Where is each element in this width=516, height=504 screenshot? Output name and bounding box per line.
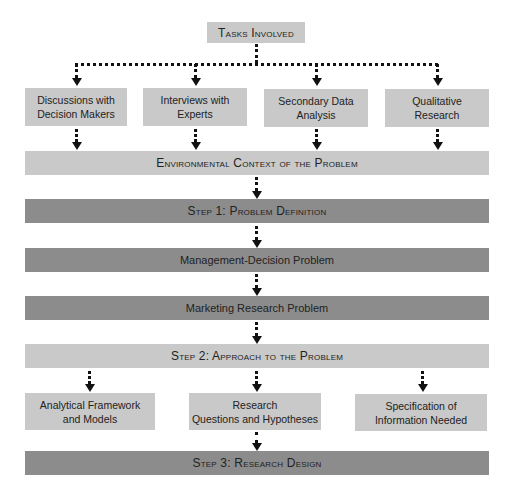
step2-label: Step 2: Approach to the Problem: [171, 349, 343, 363]
arrow-down-icon: [252, 288, 262, 296]
connector-line: [255, 322, 258, 336]
tasks-involved-label: Tasks Involved: [218, 26, 294, 40]
arrow-down-icon: [252, 384, 262, 392]
task-interviews-box: Interviews with Experts: [143, 88, 247, 126]
connector-line: [436, 129, 439, 142]
management-decision-problem-label: Management-Decision Problem: [180, 254, 334, 266]
connector-line: [421, 371, 424, 384]
component-label: Analytical Framework and Models: [40, 398, 140, 426]
task-discussions-box: Discussions with Decision Makers: [25, 88, 127, 126]
connector-line: [75, 129, 78, 142]
step1-label: Step 1: Problem Definition: [188, 204, 327, 218]
task-label: Qualitative Research: [412, 94, 462, 122]
connector-line: [194, 129, 197, 142]
task-label: Interviews with Experts: [161, 93, 230, 121]
step2-bar: Step 2: Approach to the Problem: [25, 344, 489, 368]
arrow-down-icon: [252, 443, 262, 451]
marketing-research-problem-label: Marketing Research Problem: [186, 302, 328, 314]
arrow-down-icon: [433, 78, 443, 86]
arrow-down-icon: [191, 78, 201, 86]
connector-line: [255, 226, 258, 240]
connector-line: [255, 44, 258, 63]
arrow-down-icon: [252, 240, 262, 248]
connector-line: [255, 274, 258, 288]
connector-line: [255, 432, 258, 443]
arrow-down-icon: [252, 191, 262, 199]
task-label: Secondary Data Analysis: [278, 94, 353, 122]
arrow-down-icon: [312, 78, 322, 86]
management-decision-problem-bar: Management-Decision Problem: [25, 248, 489, 272]
connector-line: [255, 371, 258, 384]
environmental-context-label: Environmental Context of the Problem: [156, 156, 358, 170]
marketing-research-problem-bar: Marketing Research Problem: [25, 296, 489, 320]
task-label: Discussions with Decision Makers: [37, 93, 115, 121]
connector-line: [88, 371, 91, 384]
task-qualitative-box: Qualitative Research: [385, 89, 489, 127]
environmental-context-bar: Environmental Context of the Problem: [25, 151, 489, 175]
component-label: Research Questions and Hypotheses: [192, 398, 318, 426]
connector-line: [75, 63, 438, 66]
connector-line: [75, 64, 78, 78]
tasks-involved-box: Tasks Involved: [207, 22, 305, 43]
step3-bar: Step 3: Research Design: [25, 451, 489, 475]
specification-info-box: Specification of Information Needed: [355, 394, 487, 431]
connector-line: [315, 64, 318, 78]
connector-line: [194, 64, 197, 78]
arrow-down-icon: [72, 78, 82, 86]
step3-label: Step 3: Research Design: [192, 456, 321, 470]
arrow-down-icon: [252, 336, 262, 344]
arrow-down-icon: [191, 142, 201, 150]
analytical-framework-box: Analytical Framework and Models: [25, 393, 155, 430]
task-secondary-data-box: Secondary Data Analysis: [264, 89, 368, 127]
step1-bar: Step 1: Problem Definition: [25, 199, 489, 223]
arrow-down-icon: [418, 384, 428, 392]
arrow-down-icon: [433, 142, 443, 150]
component-label: Specification of Information Needed: [375, 399, 467, 427]
connector-line: [255, 177, 258, 191]
connector-line: [436, 64, 439, 78]
arrow-down-icon: [312, 142, 322, 150]
research-questions-box: Research Questions and Hypotheses: [189, 393, 321, 430]
connector-line: [315, 129, 318, 142]
arrow-down-icon: [85, 384, 95, 392]
arrow-down-icon: [72, 142, 82, 150]
